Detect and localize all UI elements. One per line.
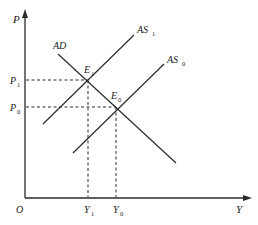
svg-text:0: 0 <box>182 60 185 67</box>
svg-text:AS: AS <box>136 24 148 35</box>
p0-label: P 0 <box>9 102 20 115</box>
as1-label: AS 1 <box>136 24 155 37</box>
x-axis-label: Y <box>236 203 244 215</box>
svg-text:P: P <box>9 75 16 86</box>
x-axis-arrow-icon <box>243 195 252 201</box>
ad-as-diagram: P O Y AD AS 1 AS 0 E 1 E 0 P 1 P 0 Y 1 Y… <box>0 0 258 225</box>
svg-text:P: P <box>9 102 16 113</box>
svg-text:Y: Y <box>84 204 91 215</box>
y0-label: Y 0 <box>113 204 123 217</box>
svg-text:1: 1 <box>17 81 20 88</box>
svg-text:0: 0 <box>120 210 123 217</box>
svg-text:AS: AS <box>166 54 178 65</box>
svg-text:Y: Y <box>113 204 120 215</box>
svg-text:E: E <box>110 90 117 101</box>
y-axis-arrow-icon <box>22 9 28 18</box>
e1-label: E 1 <box>83 64 94 77</box>
guide-lines <box>26 80 116 197</box>
as0-label: AS 0 <box>166 54 185 67</box>
e0-label: E 0 <box>110 90 121 103</box>
svg-text:0: 0 <box>17 108 20 115</box>
ad-label: AD <box>52 40 67 51</box>
y-axis-label: P <box>12 13 20 25</box>
origin-label: O <box>16 204 23 215</box>
curves <box>43 35 176 163</box>
svg-text:1: 1 <box>152 30 155 37</box>
y1-label: Y 1 <box>84 204 94 217</box>
svg-text:E: E <box>83 64 90 75</box>
svg-text:1: 1 <box>91 70 94 77</box>
svg-text:1: 1 <box>91 210 94 217</box>
svg-text:0: 0 <box>118 96 121 103</box>
p1-label: P 1 <box>9 75 20 88</box>
